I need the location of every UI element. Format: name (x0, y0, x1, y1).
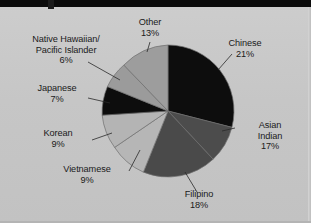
label-vietnamese-percent: 9% (46, 175, 128, 186)
label-korean: Korean 9% (28, 128, 88, 149)
label-chinese: Chinese 21% (213, 38, 277, 59)
label-filipino: Filipino 18% (168, 189, 230, 210)
label-native-hawaiian: Native Hawaiian/ Pacific Islander 6% (12, 34, 120, 66)
label-chinese-percent: 21% (213, 49, 277, 60)
label-filipino-name: Filipino (185, 189, 213, 199)
label-native-hawaiian-line2: Pacific Islander (12, 45, 120, 56)
label-chinese-name: Chinese (228, 38, 261, 48)
label-korean-percent: 9% (28, 139, 88, 150)
label-japanese-name: Japanese (37, 83, 76, 93)
label-asian-indian-percent: 17% (240, 141, 300, 152)
label-asian-indian: Asian Indian 17% (240, 120, 300, 152)
pie-slices (102, 45, 234, 177)
chart-page: Other 13% Native Hawaiian/ Pacific Islan… (0, 0, 311, 223)
label-filipino-percent: 18% (168, 200, 230, 211)
label-japanese-percent: 7% (24, 94, 90, 105)
label-asian-indian-line2: Indian (240, 131, 300, 142)
label-other-name: Other (139, 17, 161, 27)
label-vietnamese: Vietnamese 9% (46, 164, 128, 185)
label-native-hawaiian-line1: Native Hawaiian/ (32, 34, 99, 44)
label-korean-name: Korean (43, 128, 72, 138)
label-vietnamese-name: Vietnamese (63, 164, 110, 174)
label-native-hawaiian-percent: 6% (12, 55, 120, 66)
label-japanese: Japanese 7% (24, 83, 90, 104)
label-other-percent: 13% (111, 28, 189, 39)
label-other: Other 13% (111, 17, 189, 38)
label-asian-indian-line1: Asian (259, 120, 281, 130)
